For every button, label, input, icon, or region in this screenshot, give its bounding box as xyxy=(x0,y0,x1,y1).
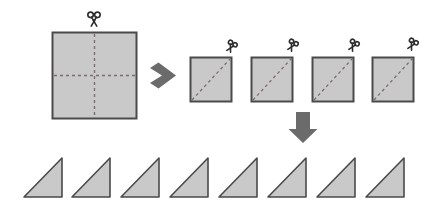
arrow-right-icon xyxy=(150,63,176,89)
triangle-4 xyxy=(170,158,208,197)
triangle-6 xyxy=(268,158,306,197)
arrow-down-icon xyxy=(289,112,318,143)
scissors-icon xyxy=(88,12,100,26)
big-square xyxy=(53,33,137,119)
small-square-2 xyxy=(252,39,299,102)
triangle-5 xyxy=(219,158,257,197)
triangle-8 xyxy=(366,158,404,197)
diagram-canvas: Paper folding and cutting instruction di… xyxy=(0,0,430,212)
small-square-3 xyxy=(313,39,360,102)
triangle-7 xyxy=(317,158,355,197)
small-square-4 xyxy=(373,38,419,102)
step-2-group xyxy=(191,38,419,102)
scissors-icon xyxy=(225,40,238,54)
shapes-layer xyxy=(0,0,430,212)
scissors-icon xyxy=(286,39,299,53)
step-1-group xyxy=(53,12,137,118)
triangle-1 xyxy=(24,158,62,197)
step-3-group xyxy=(24,158,404,197)
scissors-icon xyxy=(406,38,419,52)
triangle-3 xyxy=(121,158,159,197)
small-square-1 xyxy=(191,40,238,102)
triangle-2 xyxy=(72,158,110,197)
scissors-icon xyxy=(347,39,360,53)
